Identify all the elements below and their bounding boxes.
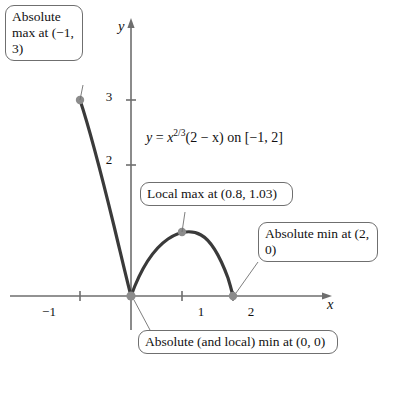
equation-label: y = x2/3(2 − x) on [−1, 2] <box>146 128 283 146</box>
xtick-label-2: 2 <box>246 304 256 320</box>
point-absolute-min <box>229 292 237 300</box>
equation-domain: on [−1, 2] <box>227 130 283 145</box>
callout-min-at-origin: Absolute (and local) min at (0, 0) <box>138 330 338 354</box>
callout-absolute-max: Absolute max at (−1, 3) <box>5 5 83 61</box>
ytick-label-2: 2 <box>103 152 115 168</box>
equation-exponent: 2/3 <box>173 128 185 138</box>
figure: y = x2/3(2 − x) on [−1, 2] x y −1 1 2 2 … <box>0 0 396 399</box>
xtick-label-1: 1 <box>196 304 206 320</box>
y-axis-label: y <box>118 18 124 35</box>
y-axis-arrow <box>127 18 134 28</box>
equation-factor: (2 − x) <box>185 130 223 145</box>
callout-local-max: Local max at (0.8, 1.03) <box>140 182 293 206</box>
curve-right-branch <box>131 232 233 296</box>
x-axis-label: x <box>327 296 333 313</box>
callout-absolute-min: Absolute min at (2, 0) <box>258 222 378 262</box>
point-min-origin <box>126 291 135 300</box>
curve-left-branch <box>80 100 131 296</box>
xtick-label--1: −1 <box>40 304 58 320</box>
ytick-label-3: 3 <box>103 89 115 105</box>
leader-absolute-min <box>236 262 258 293</box>
equation-equals: = <box>156 130 164 145</box>
leader-min-origin <box>134 300 150 330</box>
equation-lhs: y <box>146 130 152 145</box>
